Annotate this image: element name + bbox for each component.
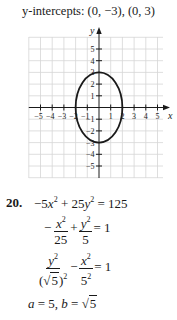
svg-text:4: 4 xyxy=(91,57,95,66)
svg-text:−1: −1 xyxy=(86,115,95,124)
problem-number: 20. xyxy=(6,195,22,211)
svg-text:5: 5 xyxy=(91,45,95,54)
svg-text:5: 5 xyxy=(156,112,160,121)
svg-text:1: 1 xyxy=(91,92,95,101)
svg-text:−5: −5 xyxy=(86,162,95,171)
y-axis-label: y xyxy=(89,25,95,36)
ellipse-graph: −5 −4 −3 −2 −1 1 2 3 4 5 5 4 3 2 1 −1 −2… xyxy=(0,0,177,190)
equation-line-1: −5x2 + 25y2 = 125 xyxy=(34,195,128,212)
svg-text:−4: −4 xyxy=(86,150,95,159)
svg-text:4: 4 xyxy=(144,112,148,121)
svg-text:2: 2 xyxy=(91,80,95,89)
equation-line-2: −x225+y25= 1 xyxy=(44,212,111,247)
svg-text:−4: −4 xyxy=(46,112,55,121)
svg-text:−3: −3 xyxy=(58,112,67,121)
equation-line-4: a = 5, b = √5 xyxy=(28,296,97,312)
equation-line-3: y2(√5)2−x252= 1 xyxy=(36,249,111,288)
svg-text:−2: −2 xyxy=(86,127,95,136)
svg-text:−5: −5 xyxy=(34,112,43,121)
svg-text:3: 3 xyxy=(132,112,136,121)
y-axis-arrow-icon xyxy=(96,27,101,34)
svg-text:1: 1 xyxy=(109,112,113,121)
x-axis-label: x xyxy=(167,110,173,121)
